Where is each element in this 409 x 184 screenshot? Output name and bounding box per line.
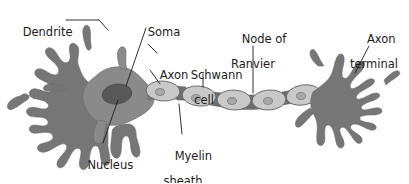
dendrite-top-spur <box>83 25 91 50</box>
label-axon-terminal-line1: Axon <box>367 32 396 46</box>
schwann-nucleus-5 <box>297 93 306 100</box>
terminal-top-spur <box>310 49 324 66</box>
label-soma: Soma <box>133 13 173 51</box>
label-soma-line1: Soma <box>148 25 181 39</box>
dendrite-left-spur <box>7 94 29 110</box>
label-node-of-ranvier: Node of Ranvier <box>227 20 279 95</box>
label-schwann-cell: Schwann cell <box>176 56 232 131</box>
neuron-diagram: Dendrite Soma Axon Schwann cell Node of … <box>0 0 409 183</box>
schwann-nucleus-4 <box>264 98 273 105</box>
terminal-lower-branch <box>295 108 314 127</box>
label-dendrite-line1: Dendrite <box>23 25 73 39</box>
label-schwann-cell-line2: cell <box>176 94 232 107</box>
label-nucleus: Nucleus <box>72 146 134 183</box>
label-myelin-sheath-line1: Myelin <box>175 149 212 163</box>
label-node-of-ranvier-line1: Node of <box>242 32 287 46</box>
label-myelin-sheath: Myelin sheath <box>160 137 206 183</box>
label-axon-terminal-line2: terminal <box>346 58 402 71</box>
label-nucleus-line1: Nucleus <box>87 158 133 172</box>
label-myelin-sheath-line2: sheath <box>160 175 206 184</box>
leader-dendrite-diag <box>99 20 108 30</box>
label-axon-terminal: Axon terminal <box>346 20 402 95</box>
label-node-of-ranvier-line2: Ranvier <box>227 58 279 71</box>
label-dendrite: Dendrite <box>8 13 73 51</box>
